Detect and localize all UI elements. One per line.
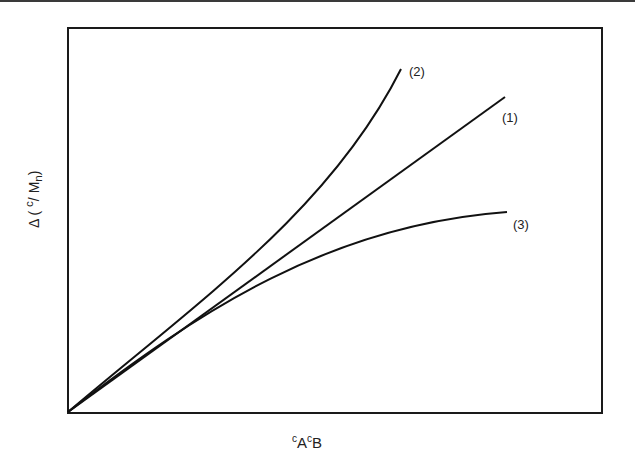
plot-area	[0, 0, 635, 474]
curve-2-label: (2)	[409, 64, 425, 79]
curve-1	[68, 97, 505, 412]
y-axis-label: Δ ( c/ Mn)	[22, 171, 44, 228]
x-axis-label: cAcB	[292, 433, 322, 451]
curve-1-label: (1)	[502, 110, 518, 125]
curve-2	[68, 69, 401, 412]
curve-3-label: (3)	[513, 217, 529, 232]
curve-3	[68, 212, 507, 412]
